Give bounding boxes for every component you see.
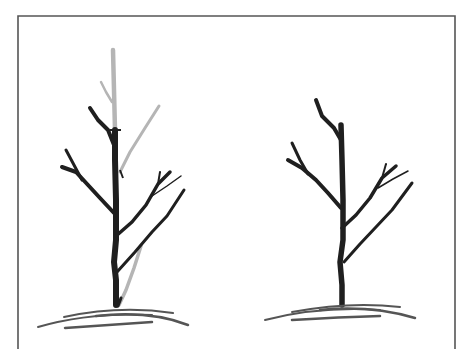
- cut-mark-branch: [120, 170, 123, 178]
- kept-branches: [62, 108, 184, 306]
- ground-strokes-after: [265, 305, 415, 320]
- tree-before-pruning: [38, 50, 188, 328]
- tree-after-pruning: [265, 100, 415, 320]
- kept-branches-after: [288, 100, 412, 305]
- ground-strokes-before: [38, 310, 188, 328]
- pruned-branches: [101, 50, 159, 305]
- pruning-diagram: [0, 0, 470, 349]
